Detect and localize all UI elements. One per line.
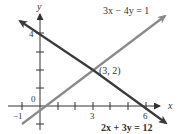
origin-label: 0 xyxy=(31,94,36,104)
equation-label-line2: 2x + 3y = 12 xyxy=(101,122,152,133)
intersection-label: (3, 2) xyxy=(99,65,121,77)
x-tick-label-neg1: −1 xyxy=(13,111,23,121)
x-tick-label-6: 6 xyxy=(143,111,148,121)
x-axis-label: x xyxy=(167,100,173,111)
line-2x-plus-3y-eq-12-lower xyxy=(93,70,166,123)
y-axis-label: y xyxy=(36,1,42,12)
y-axis: y 4 0 xyxy=(29,1,44,130)
line-2x-plus-3y-eq-12-upper xyxy=(20,21,93,70)
graph-figure: x −1 3 6 y 4 0 (3, 2) 3x − 4y = 1 2x + 3… xyxy=(0,0,183,134)
equation-label-line1: 3x − 4y = 1 xyxy=(103,5,149,16)
x-tick-label-3: 3 xyxy=(90,111,95,121)
